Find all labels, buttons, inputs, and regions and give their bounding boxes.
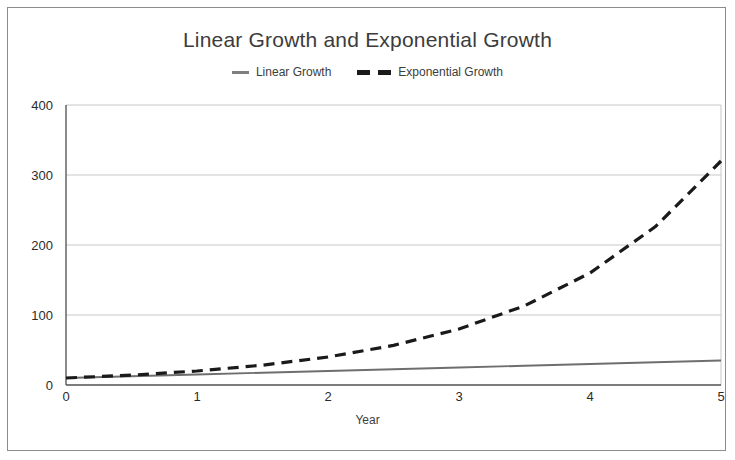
y-axis-tick-label: 100 [19,308,53,323]
plot-area [59,97,724,392]
x-axis-tick-label: 0 [51,389,81,404]
x-axis-tick-label: 4 [575,389,605,404]
x-axis-tick-label: 5 [706,389,735,404]
plot-svg [59,97,724,392]
y-axis-tick-label: 400 [19,98,53,113]
legend-label-exponential-growth: Exponential Growth [398,66,503,78]
legend-solid-line-icon [232,71,249,74]
gridlines [66,105,721,385]
x-axis-tick-label: 3 [444,389,474,404]
x-axis-tick-label: 2 [313,389,343,404]
chart-title: Linear Growth and Exponential Growth [8,28,727,52]
x-axis-tick-labels: 012345 [8,389,727,409]
legend-item-exponential-growth: Exponential Growth [357,66,503,78]
y-axis-tick-label: 300 [19,168,53,183]
x-axis-title: Year [8,413,727,427]
legend-item-linear-growth: Linear Growth [232,66,331,78]
legend-dashed-line-icon [357,70,391,75]
chart-container: Linear Growth and Exponential Growth Lin… [7,7,726,451]
legend-label-linear-growth: Linear Growth [256,66,331,78]
x-axis-tick-label: 1 [182,389,212,404]
y-axis-tick-label: 200 [19,238,53,253]
chart-legend: Linear Growth Exponential Growth [8,66,727,78]
series-line-linear-growth [66,361,721,379]
y-axis-tick-labels: 0100200300400 [15,97,53,392]
series-line-exponential-growth [66,161,721,378]
